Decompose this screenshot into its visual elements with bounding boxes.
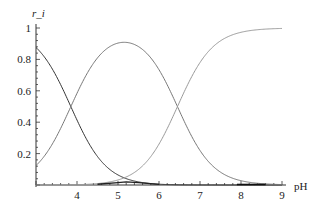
y-tick-label: 0.4	[17, 116, 31, 128]
x-tick-label: 6	[156, 189, 162, 201]
series-r2-line	[36, 28, 282, 185]
x-tick-label: 8	[238, 189, 244, 201]
x-tick-label: 5	[115, 189, 121, 201]
y-axis-title: r_i	[32, 7, 45, 19]
axes: 4567890.20.40.60.81	[17, 22, 286, 201]
y-tick-label: 1	[26, 22, 32, 34]
series-r0-line	[36, 47, 282, 185]
x-tick-label: 4	[74, 189, 80, 201]
x-axis-title: pH	[294, 180, 308, 192]
species-distribution-chart: 4567890.20.40.60.81 r_i pH	[0, 0, 319, 206]
y-tick-label: 0.2	[17, 148, 31, 160]
x-tick-label: 9	[279, 189, 285, 201]
series-r1-line	[36, 42, 282, 184]
x-tick-label: 7	[197, 189, 203, 201]
y-tick-label: 0.6	[17, 85, 31, 97]
curves	[36, 28, 282, 185]
y-tick-label: 0.8	[17, 53, 31, 65]
